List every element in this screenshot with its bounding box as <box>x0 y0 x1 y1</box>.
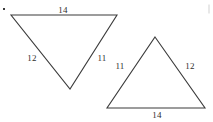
right-triangle-outline <box>107 37 205 108</box>
top-left-bullet-mark <box>3 8 5 10</box>
right-triangle-bottom-side-label: 14 <box>152 111 161 120</box>
left-triangle-left-side-label: 12 <box>27 54 36 63</box>
left-triangle-right-side-label: 11 <box>97 54 106 63</box>
right-triangle-left-side-label: 11 <box>115 62 124 71</box>
right-triangle-right-side-label: 12 <box>185 62 194 71</box>
left-triangle-top-side-label: 14 <box>58 6 67 15</box>
right-edge-tick-mark <box>209 5 210 14</box>
geometry-figure: 14 12 11 11 12 14 <box>0 0 213 122</box>
